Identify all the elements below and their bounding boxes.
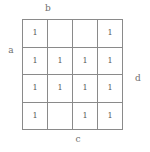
edge-label-right: d (132, 74, 144, 83)
kmap-cell: 1 (23, 48, 48, 76)
kmap-cell: 1 (98, 48, 123, 76)
kmap-cell: 1 (23, 20, 48, 48)
kmap-cell (73, 20, 98, 48)
kmap-cell: 1 (98, 20, 123, 48)
edge-label-bottom: c (72, 135, 84, 144)
kmap-cell (48, 103, 73, 131)
kmap-cell: 1 (73, 75, 98, 103)
kmap-cell: 1 (73, 103, 98, 131)
kmap-cell: 1 (73, 48, 98, 76)
karnaugh-map-figure: b a d c 1 1 1 1 1 1 1 1 1 1 1 1 1 (0, 0, 150, 152)
kmap-cell (48, 20, 73, 48)
karnaugh-map-grid: 1 1 1 1 1 1 1 1 1 1 1 1 1 (22, 19, 123, 130)
kmap-cell: 1 (23, 75, 48, 103)
kmap-cell: 1 (23, 103, 48, 131)
edge-label-top: b (42, 4, 54, 13)
kmap-cell: 1 (98, 103, 123, 131)
kmap-cell: 1 (98, 75, 123, 103)
kmap-cell: 1 (48, 75, 73, 103)
kmap-cell: 1 (48, 48, 73, 76)
edge-label-left: a (5, 46, 17, 55)
